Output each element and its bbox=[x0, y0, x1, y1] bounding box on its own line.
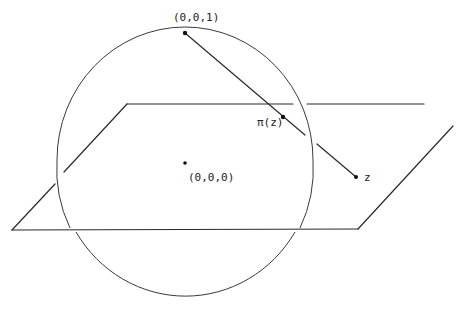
origin-label: (0,0,0) bbox=[188, 171, 234, 184]
sphere-lower-arc bbox=[76, 232, 295, 296]
projection-ray-outside bbox=[317, 144, 356, 177]
plane-left-edge-upper bbox=[64, 104, 127, 172]
plane-right-edge bbox=[358, 126, 453, 229]
plane-left-edge-lower bbox=[12, 184, 55, 230]
point-z-dot bbox=[354, 175, 358, 179]
point-z-label: z bbox=[364, 171, 371, 184]
projection-ray-inside bbox=[185, 33, 305, 135]
north-pole-label: (0,0,1) bbox=[173, 11, 219, 24]
origin-dot bbox=[183, 161, 187, 165]
plane-front-edge bbox=[12, 229, 358, 230]
stereographic-diagram: (0,0,1) (0,0,0) π(z) z bbox=[0, 0, 462, 310]
projection-label: π(z) bbox=[257, 116, 284, 129]
north-pole-dot bbox=[183, 31, 187, 35]
